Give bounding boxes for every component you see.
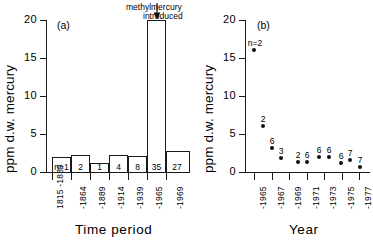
bar-count-label: 27 bbox=[166, 162, 188, 172]
data-point bbox=[261, 124, 265, 128]
panel-b-x-tick bbox=[324, 173, 325, 180]
data-point bbox=[327, 155, 331, 159]
panel-a-x-tick bbox=[109, 173, 110, 180]
panel-a-x-tick-label: -1864 bbox=[78, 186, 88, 209]
panel-b-y-tick-label: 5 bbox=[211, 127, 236, 139]
data-point-label: 7 bbox=[345, 148, 355, 158]
panel-a-label: (a) bbox=[57, 19, 70, 31]
panel-a-y-axis-line bbox=[46, 20, 47, 172]
data-point bbox=[252, 48, 256, 52]
bar-count-label: 8 bbox=[128, 162, 147, 172]
data-point bbox=[339, 161, 343, 165]
panel-b-x-tick-label: -1971 bbox=[311, 186, 321, 209]
panel-a-y-tick-label: 5 bbox=[12, 127, 37, 139]
panel-a-y-tick-label: 15 bbox=[12, 51, 37, 63]
panel-b-scatter-chart: ppm d.w. mercury 20 15 10 5 0 (b) n=2 2 … bbox=[195, 0, 371, 244]
panel-b-x-tick bbox=[289, 173, 290, 180]
panel-b-x-tick-label: -1973 bbox=[328, 186, 338, 209]
data-point bbox=[317, 155, 321, 159]
data-point-label: 3 bbox=[276, 146, 286, 156]
panel-a-y-tick bbox=[40, 134, 46, 135]
panel-a-bar-chart: ppm d.w. mercury 20 15 10 5 0 (a) n=1 2 … bbox=[0, 0, 195, 244]
panel-b-x-tick bbox=[307, 173, 308, 180]
panel-b-x-tick-label: -1977 bbox=[363, 186, 373, 209]
data-point-label: 2 bbox=[258, 114, 268, 124]
panel-a-y-tick-label: 0 bbox=[12, 165, 37, 177]
panel-b-x-axis-line bbox=[239, 172, 370, 173]
panel-b-x-tick bbox=[272, 173, 273, 180]
bar-count-label: 4 bbox=[109, 162, 128, 172]
data-point bbox=[270, 146, 274, 150]
data-point bbox=[296, 160, 300, 164]
bar-count-label: 2 bbox=[71, 162, 90, 172]
panel-b-y-tick bbox=[239, 96, 245, 97]
data-point-label: 6 bbox=[324, 145, 334, 155]
panel-a-x-tick-label: -1914 bbox=[116, 186, 126, 209]
data-point bbox=[358, 165, 362, 169]
data-point bbox=[305, 160, 309, 164]
panel-b-x-tick bbox=[359, 173, 360, 180]
panel-a-x-tick-label: -1969 bbox=[175, 186, 185, 209]
panel-b-x-axis-title: Year bbox=[289, 222, 319, 237]
panel-a-x-tick-label: -1889 bbox=[97, 186, 107, 209]
data-point-label: 6 bbox=[302, 150, 312, 160]
panel-b-x-tick bbox=[342, 173, 343, 180]
panel-b-y-tick-label: 0 bbox=[211, 165, 236, 177]
data-point-label: 7 bbox=[355, 155, 365, 165]
panel-a-x-tick bbox=[128, 173, 129, 180]
panel-a-y-tick-label: 20 bbox=[12, 13, 37, 25]
panel-b-y-tick-label: 20 bbox=[211, 13, 236, 25]
panel-a-x-tick-label: -1965 bbox=[154, 186, 164, 209]
panel-a-y-tick bbox=[40, 58, 46, 59]
panel-b-x-tick-label: -1975 bbox=[346, 186, 356, 209]
panel-a-x-tick-label: -1939 bbox=[135, 186, 145, 209]
bar-count-label: 35 bbox=[147, 162, 166, 172]
panel-b-label: (b) bbox=[257, 19, 270, 31]
data-point-label: 6 bbox=[314, 145, 324, 155]
panel-a-x-tick bbox=[71, 173, 72, 180]
panel-b-y-tick bbox=[239, 58, 245, 59]
panel-b-y-tick bbox=[239, 20, 245, 21]
panel-a-x-tick bbox=[147, 173, 148, 180]
down-arrow-icon bbox=[152, 3, 162, 19]
panel-a-x-tick bbox=[52, 173, 53, 180]
panel-a-x-tick bbox=[166, 173, 167, 180]
panel-b-x-tick-label: -1965 bbox=[258, 186, 268, 209]
panel-a-y-tick-label: 10 bbox=[12, 89, 37, 101]
panel-b-y-axis-title: ppm d.w. mercury bbox=[201, 65, 216, 173]
panel-a-y-tick bbox=[40, 20, 46, 21]
bar-count-label: 1 bbox=[90, 162, 109, 172]
panel-b-x-tick-label: -1967 bbox=[276, 186, 286, 209]
bar-1965 bbox=[147, 20, 166, 173]
panel-a-y-axis-title: ppm d.w. mercury bbox=[2, 65, 17, 173]
panel-b-y-tick-label: 15 bbox=[211, 51, 236, 63]
panel-a-x-axis-title: Time period bbox=[75, 222, 152, 237]
panel-b-x-tick bbox=[254, 173, 255, 180]
panel-a-x-tick bbox=[90, 173, 91, 180]
panel-b-y-tick-label: 10 bbox=[211, 89, 236, 101]
panel-b-x-tick-label: -1969 bbox=[293, 186, 303, 209]
data-point bbox=[279, 156, 283, 160]
annotation-line-2: introduced bbox=[143, 11, 183, 21]
panel-a-y-tick bbox=[40, 96, 46, 97]
data-point-label: 6 bbox=[267, 136, 277, 146]
panel-a-x-tick-label: 1815 -1839 bbox=[55, 164, 65, 209]
data-point-label: n=2 bbox=[245, 38, 265, 48]
data-point bbox=[348, 158, 352, 162]
panel-b-y-tick bbox=[239, 134, 245, 135]
